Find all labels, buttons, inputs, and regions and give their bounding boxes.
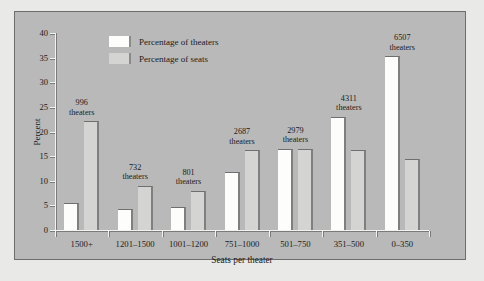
plot-area: Percent Seats per theater 05101520253035… — [55, 33, 429, 230]
x-tick-label: 0–350 — [391, 239, 413, 249]
bar-theaters — [278, 149, 293, 230]
y-tick-label: 5 — [44, 200, 48, 210]
bar-theaters — [171, 207, 186, 230]
y-tick — [50, 132, 55, 133]
x-tick-label: 351–500 — [334, 239, 364, 249]
y-tick-label: 30 — [40, 77, 49, 87]
y-tick-label: 40 — [40, 28, 49, 38]
y-tick — [50, 82, 55, 83]
bar-theaters — [331, 117, 346, 230]
y-tick-label: 15 — [40, 151, 49, 161]
chart-figure: Percentage of theaters Percentage of sea… — [14, 11, 466, 260]
x-tick — [429, 231, 430, 237]
y-tick — [50, 156, 55, 157]
x-tick — [215, 231, 216, 237]
x-tick — [55, 231, 56, 237]
bar-seats — [298, 149, 313, 230]
x-tick — [162, 231, 163, 237]
bar-annotation: 6507theaters — [390, 33, 415, 52]
x-axis-title: Seats per theater — [211, 255, 272, 265]
y-tick — [50, 33, 55, 34]
bar-annotation: 4311theaters — [336, 94, 361, 113]
bar-annotation: 996theaters — [69, 98, 94, 117]
bar-seats — [405, 159, 420, 230]
y-tick — [50, 58, 55, 59]
x-tick — [376, 231, 377, 237]
bar-theaters — [225, 172, 240, 230]
x-tick-label: 1001–1200 — [169, 239, 208, 249]
y-tick-label: 35 — [40, 53, 49, 63]
y-tick-label: 25 — [40, 102, 49, 112]
bar-theaters — [118, 209, 133, 230]
bar-seats — [351, 150, 366, 230]
y-axis-line — [55, 33, 56, 230]
y-tick — [50, 181, 55, 182]
y-tick-label: 0 — [44, 225, 48, 235]
y-tick — [50, 107, 55, 108]
x-tick — [108, 231, 109, 237]
x-tick — [269, 231, 270, 237]
y-tick-label: 20 — [40, 127, 49, 137]
x-tick-label: 751–1000 — [225, 239, 260, 249]
x-tick-label: 1201–1500 — [116, 239, 155, 249]
bar-annotation: 801theaters — [176, 168, 201, 187]
bar-theaters — [385, 56, 400, 230]
x-tick — [322, 231, 323, 237]
x-tick-label: 501–750 — [280, 239, 310, 249]
bar-seats — [245, 150, 260, 230]
bar-seats — [138, 186, 153, 230]
bar-seats — [84, 121, 99, 230]
y-tick — [50, 205, 55, 206]
bar-annotation: 732theaters — [122, 163, 147, 182]
bar-seats — [191, 191, 206, 230]
bar-annotation: 2687theaters — [229, 127, 254, 146]
y-tick-label: 10 — [40, 176, 49, 186]
x-axis-line — [55, 230, 429, 231]
x-tick-label: 1500+ — [71, 239, 93, 249]
bar-theaters — [64, 203, 79, 230]
bar-annotation: 2979theaters — [283, 126, 308, 145]
